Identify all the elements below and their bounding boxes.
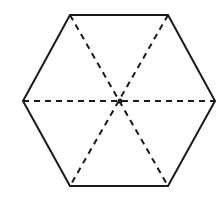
center-point bbox=[118, 99, 123, 104]
hexagon-diagram bbox=[0, 0, 220, 203]
